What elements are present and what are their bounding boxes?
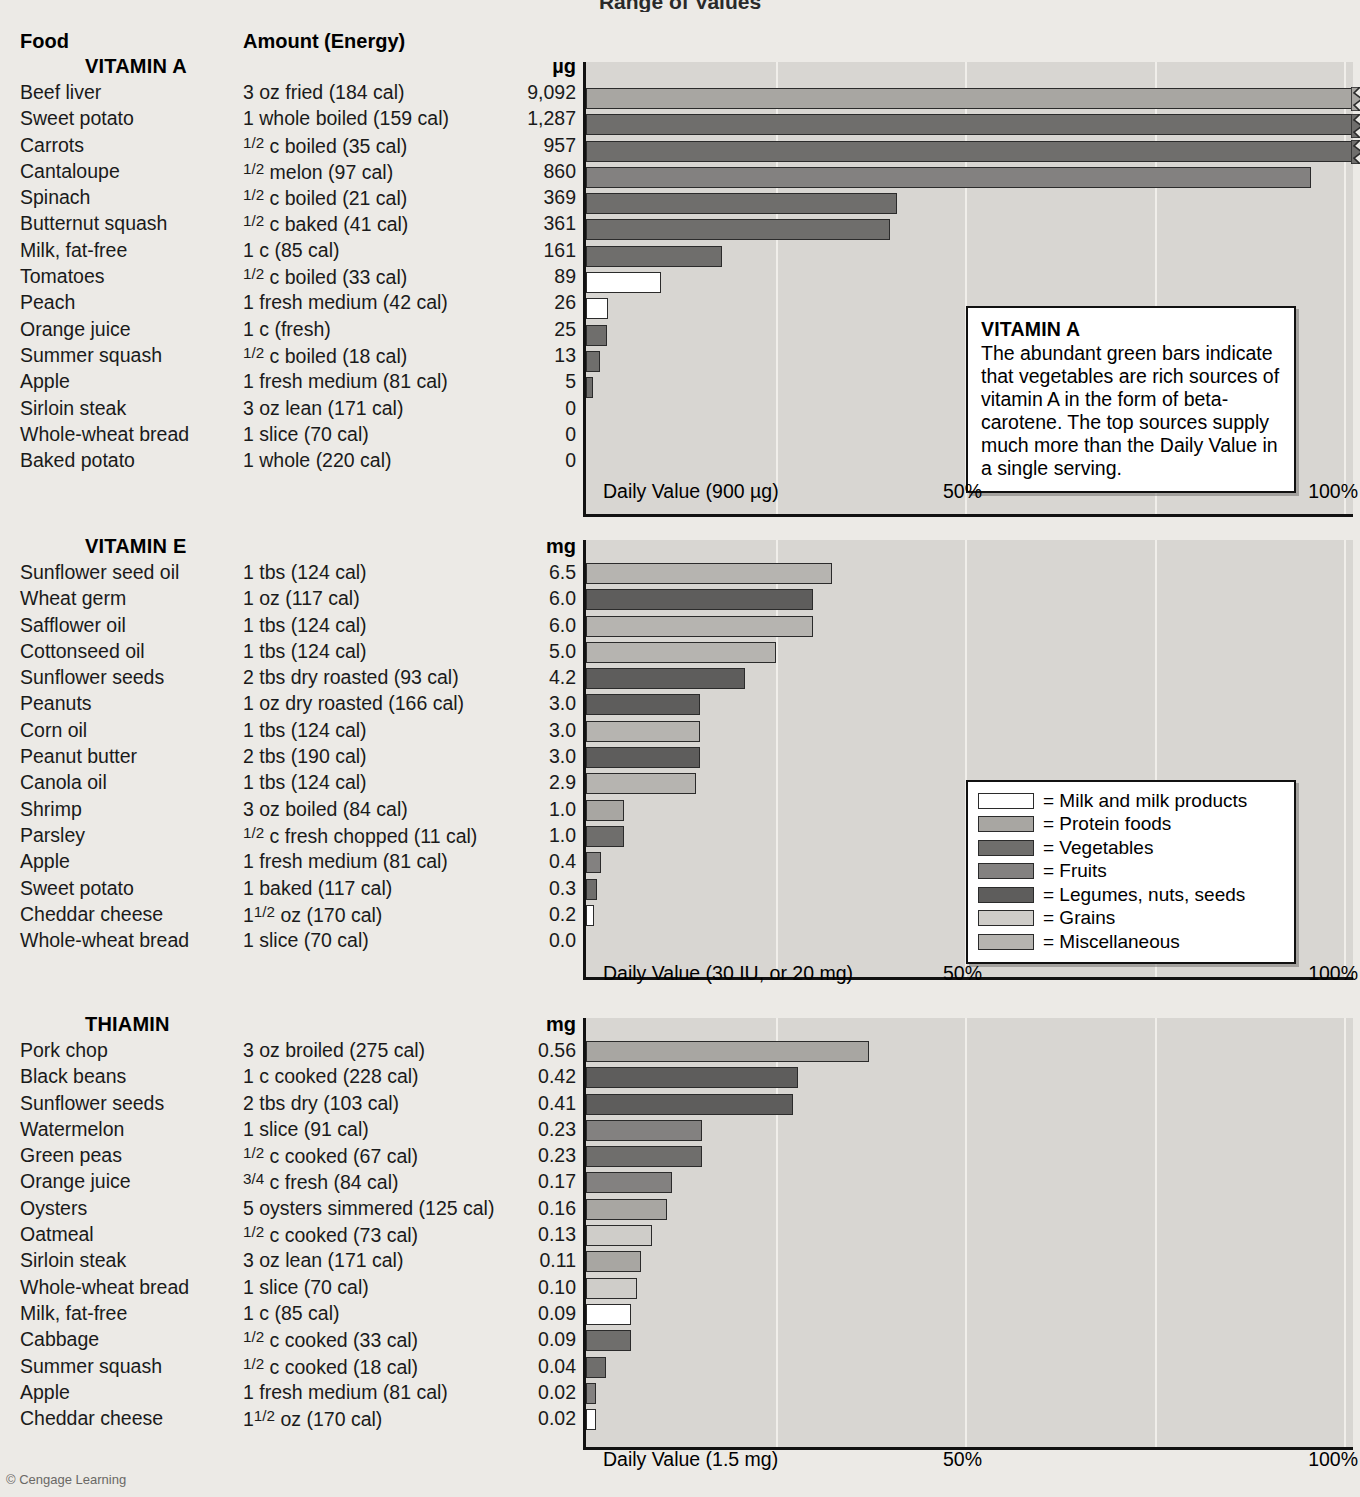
food-amount: 3 oz fried (184 cal) bbox=[243, 81, 405, 104]
legend-label: = Legumes, nuts, seeds bbox=[1043, 884, 1245, 906]
table-row: Orange juice 3/4 c fresh (84 cal) 0.17 bbox=[0, 1170, 580, 1196]
food-amount: 1 tbs (124 cal) bbox=[243, 640, 367, 663]
bar-slot bbox=[586, 1381, 1353, 1407]
bar bbox=[586, 1357, 606, 1378]
unit-label: µg bbox=[520, 55, 576, 78]
nutrient-value: 0 bbox=[450, 423, 576, 446]
food-name: Oysters bbox=[20, 1197, 87, 1220]
bar bbox=[586, 1330, 631, 1351]
bar bbox=[586, 721, 700, 742]
overflow-zigzag-icon bbox=[1351, 114, 1360, 138]
nutrient-value: 5.0 bbox=[450, 640, 576, 663]
food-name: Sweet potato bbox=[20, 877, 134, 900]
food-name: Sirloin steak bbox=[20, 397, 126, 420]
bar bbox=[586, 193, 897, 214]
bar bbox=[586, 616, 813, 637]
table-row: Baked potato 1 whole (220 cal) 0 bbox=[0, 449, 580, 475]
food-name: Cabbage bbox=[20, 1328, 99, 1351]
bar bbox=[586, 272, 661, 293]
table-row: Carrots 1/2 c boiled (35 cal) 957 bbox=[0, 134, 580, 160]
legend-label: = Miscellaneous bbox=[1043, 931, 1180, 953]
bar-slot bbox=[586, 1065, 1353, 1091]
bar bbox=[586, 642, 776, 663]
bar bbox=[586, 1383, 596, 1404]
bar-plot bbox=[583, 1018, 1353, 1450]
table-row: Whole-wheat bread 1 slice (70 cal) 0.0 bbox=[0, 929, 580, 955]
food-name: Cheddar cheese bbox=[20, 1407, 163, 1430]
bar-slot bbox=[586, 1302, 1353, 1328]
column-header-amount: Amount (Energy) bbox=[243, 30, 405, 53]
legend-swatch-fruit bbox=[978, 863, 1034, 879]
legend-label: = Vegetables bbox=[1043, 837, 1153, 859]
bar bbox=[586, 1041, 869, 1062]
overflow-zigzag-icon bbox=[1351, 140, 1360, 164]
bar-slot bbox=[586, 745, 1353, 771]
bar bbox=[586, 1067, 798, 1088]
table-row: Peanut butter 2 tbs (190 cal) 3.0 bbox=[0, 745, 580, 771]
bar bbox=[586, 1304, 631, 1325]
table-row: Oysters 5 oysters simmered (125 cal) 0.1… bbox=[0, 1197, 580, 1223]
legend-swatch-prot bbox=[978, 816, 1034, 832]
nutrient-value: 0.23 bbox=[450, 1144, 576, 1167]
legend-item: = Grains bbox=[978, 907, 1284, 931]
bar bbox=[586, 1251, 641, 1272]
nutrient-value: 0 bbox=[450, 397, 576, 420]
page-title: Range of Values bbox=[0, 0, 1360, 12]
food-name: Tomatoes bbox=[20, 265, 105, 288]
bar-slot bbox=[586, 1355, 1353, 1381]
food-name: Whole-wheat bread bbox=[20, 423, 189, 446]
overflow-zigzag-icon bbox=[1351, 87, 1360, 111]
bar-slot bbox=[586, 165, 1353, 191]
legend-item: = Vegetables bbox=[978, 836, 1284, 860]
nutrient-value: 0.41 bbox=[450, 1092, 576, 1115]
axis-tick-50: 50% bbox=[943, 480, 982, 503]
table-row: Summer squash 1/2 c cooked (18 cal) 0.04 bbox=[0, 1355, 580, 1381]
legend-item: = Milk and milk products bbox=[978, 789, 1284, 813]
nutrient-value: 1.0 bbox=[450, 824, 576, 847]
bar bbox=[586, 1146, 702, 1167]
bar bbox=[586, 563, 832, 584]
food-name: Canola oil bbox=[20, 771, 107, 794]
section-title: VITAMIN A bbox=[85, 55, 187, 78]
table-row: Wheat germ 1 oz (117 cal) 6.0 bbox=[0, 587, 580, 613]
nutrient-value: 0.09 bbox=[450, 1328, 576, 1351]
food-amount: 1/2 c boiled (18 cal) bbox=[243, 344, 407, 368]
food-name: Sweet potato bbox=[20, 107, 134, 130]
table-row: Cottonseed oil 1 tbs (124 cal) 5.0 bbox=[0, 640, 580, 666]
column-header-food: Food bbox=[20, 30, 69, 53]
bar-slot bbox=[586, 719, 1353, 745]
food-amount: 1 slice (70 cal) bbox=[243, 1276, 369, 1299]
food-name: Cantaloupe bbox=[20, 160, 120, 183]
nutrient-value: 89 bbox=[450, 265, 576, 288]
bar bbox=[586, 114, 1352, 135]
bar bbox=[586, 167, 1311, 188]
axis-tick-100: 100% bbox=[1308, 480, 1358, 503]
table-row: Corn oil 1 tbs (124 cal) 3.0 bbox=[0, 719, 580, 745]
food-name: Baked potato bbox=[20, 449, 135, 472]
section-vitamin-a: VITAMIN A µg Beef liver 3 oz fried (184 … bbox=[0, 55, 1360, 530]
legend-item: = Fruits bbox=[978, 860, 1284, 884]
table-row: Green peas 1/2 c cooked (67 cal) 0.23 bbox=[0, 1144, 580, 1170]
bar bbox=[586, 1120, 702, 1141]
nutrition-chart-page: Range of Values Food Amount (Energy) VIT… bbox=[0, 0, 1360, 1497]
bar bbox=[586, 826, 624, 847]
food-name: Parsley bbox=[20, 824, 85, 847]
nutrient-value: 369 bbox=[450, 186, 576, 209]
section-thiamin: THIAMIN mg Pork chop 3 oz broiled (275 c… bbox=[0, 1013, 1360, 1483]
nutrient-value: 0.56 bbox=[450, 1039, 576, 1062]
nutrient-value: 6.0 bbox=[450, 587, 576, 610]
bar-slot bbox=[586, 1092, 1353, 1118]
food-amount: 11/2 oz (170 cal) bbox=[243, 903, 382, 927]
table-row: Beef liver 3 oz fried (184 cal) 9,092 bbox=[0, 81, 580, 107]
bar bbox=[586, 879, 597, 900]
nutrient-value: 0.42 bbox=[450, 1065, 576, 1088]
legend-swatch-milk bbox=[978, 793, 1034, 809]
bar bbox=[586, 325, 607, 346]
food-table: Pork chop 3 oz broiled (275 cal) 0.56 Bl… bbox=[0, 1039, 580, 1433]
nutrient-value: 1.0 bbox=[450, 798, 576, 821]
copyright-notice: © Cengage Learning bbox=[6, 1472, 126, 1487]
bar-group bbox=[586, 1039, 1353, 1433]
legend-label: = Fruits bbox=[1043, 860, 1107, 882]
table-row: Sirloin steak 3 oz lean (171 cal) 0.11 bbox=[0, 1249, 580, 1275]
nutrient-value: 6.5 bbox=[450, 561, 576, 584]
